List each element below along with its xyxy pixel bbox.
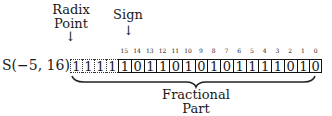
fractional-part-label-line2: Part [156,102,236,116]
fractional-part-label-line1: Fractional [156,88,236,102]
fractional-part-label: Fractional Part [156,88,236,116]
